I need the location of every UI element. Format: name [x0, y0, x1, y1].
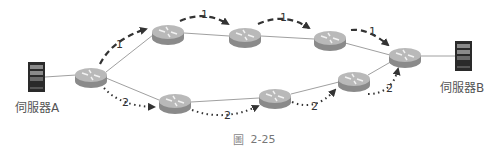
server-b-label: 伺服器B: [440, 78, 484, 95]
link-r4-r5: [191, 98, 259, 102]
link-r2-r3: [261, 36, 314, 39]
path-1-label: 1: [280, 11, 287, 24]
link-r0-r4: [106, 78, 159, 100]
path-2-arrow-seg1: [104, 88, 154, 107]
server-b-icon: [455, 41, 472, 71]
router-icon: [314, 31, 346, 51]
server-a-label: 伺服器A: [15, 98, 59, 115]
link-r3-r7: [345, 43, 390, 55]
link-r5-r6: [291, 82, 339, 94]
link-r1-r2: [184, 33, 229, 36]
router-icon: [338, 72, 370, 92]
path-1-label: 1: [116, 38, 123, 51]
path-1-label: 1: [201, 8, 208, 21]
path-2-label: 2: [386, 82, 393, 95]
path-1-label: 1: [369, 25, 376, 38]
link-serverA-r0: [45, 75, 76, 77]
router-icon: [259, 89, 291, 109]
router-icon: [159, 94, 191, 114]
router-icon: [75, 68, 107, 88]
path-2-label: 2: [311, 100, 318, 113]
path-2-label: 2: [224, 109, 231, 122]
caption-prefix: 圖: [233, 131, 244, 147]
router-icon: [152, 25, 184, 45]
path-2-label: 2: [122, 96, 129, 109]
server-a-icon: [28, 62, 45, 92]
figure-caption: 圖 2-25: [233, 131, 275, 147]
caption-text: 2-25: [251, 133, 276, 146]
router-icon: [389, 48, 421, 68]
link-r0-r1: [106, 35, 153, 72]
router-icon: [229, 28, 261, 48]
